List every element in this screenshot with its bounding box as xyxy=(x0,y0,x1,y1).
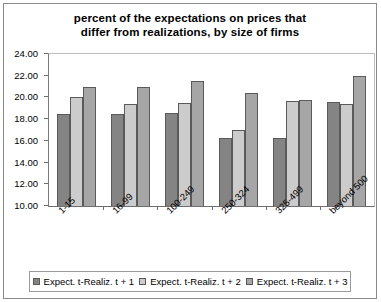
y-tick-label: 10.00 xyxy=(14,200,38,211)
y-axis: 24.0022.0020.0018.0016.0014.0012.0010.00 xyxy=(0,46,44,216)
bar xyxy=(165,113,178,206)
bar-group xyxy=(157,54,211,206)
bar xyxy=(70,97,83,206)
bar-group xyxy=(212,54,266,206)
bar xyxy=(83,87,96,206)
legend-item[interactable]: Expect. t-Realiz. t + 3 xyxy=(246,276,348,287)
bar xyxy=(137,87,150,206)
y-tick-label: 14.00 xyxy=(14,156,38,167)
chart-window: percent of the expectations on prices th… xyxy=(0,0,381,302)
bar-group xyxy=(103,54,157,206)
legend-swatch-icon xyxy=(33,278,40,285)
bar-group xyxy=(266,54,320,206)
legend-label: Expect. t-Realiz. t + 3 xyxy=(257,276,348,287)
chart-title-line-1: percent of the expectations on prices th… xyxy=(74,12,306,24)
bar xyxy=(327,102,340,206)
y-tick-label: 16.00 xyxy=(14,134,38,145)
legend-swatch-icon xyxy=(139,278,146,285)
bar xyxy=(111,114,124,206)
y-tick-label: 18.00 xyxy=(14,113,38,124)
bar-group xyxy=(49,54,103,206)
legend-label: Expect. t-Realiz. t + 1 xyxy=(44,276,135,287)
plot-area xyxy=(48,53,375,207)
x-axis: 1-1516-99100-249250-324325-499beyond 500 xyxy=(48,208,375,264)
legend-item[interactable]: Expect. t-Realiz. t + 2 xyxy=(139,276,241,287)
chart-legend: Expect. t-Realiz. t + 1Expect. t-Realiz.… xyxy=(29,271,351,292)
y-tick-label: 22.00 xyxy=(14,69,38,80)
legend-swatch-icon xyxy=(246,278,253,285)
y-tick-label: 12.00 xyxy=(14,178,38,189)
y-tick-label: 24.00 xyxy=(14,48,38,59)
chart-title: percent of the expectations on prices th… xyxy=(30,11,350,39)
legend-label: Expect. t-Realiz. t + 2 xyxy=(150,276,241,287)
y-tick-label: 20.00 xyxy=(14,91,38,102)
chart-title-line-2: differ from realizations, by size of fir… xyxy=(30,25,350,39)
bar xyxy=(57,114,70,206)
legend-item[interactable]: Expect. t-Realiz. t + 1 xyxy=(33,276,135,287)
